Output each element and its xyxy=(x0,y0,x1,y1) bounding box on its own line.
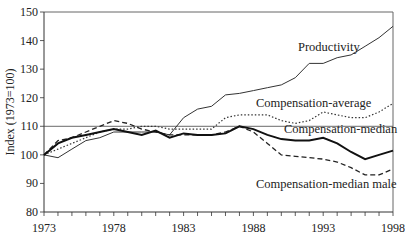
y-axis-ticks xyxy=(40,12,44,212)
x-tick-1993: 1993 xyxy=(311,221,335,235)
y-tick-100: 100 xyxy=(20,148,38,162)
y-tick-130: 130 xyxy=(20,62,38,76)
compensation-median-label: Compensation-median xyxy=(284,122,398,136)
compensation-median-male-label: Compensation-median male xyxy=(256,177,397,191)
y-tick-labels: 150 140 130 120 110 100 90 80 xyxy=(20,5,38,219)
x-tick-1978: 1978 xyxy=(102,221,126,235)
x-tick-1983: 1983 xyxy=(172,221,196,235)
x-tick-1973: 1973 xyxy=(32,221,56,235)
y-tick-110: 110 xyxy=(20,119,38,133)
y-axis-title: Index (1973=100) xyxy=(3,68,17,155)
y-tick-140: 140 xyxy=(20,34,38,48)
x-tick-labels: 1973 1978 1983 1988 1993 1998 xyxy=(32,221,405,235)
y-tick-80: 80 xyxy=(26,205,38,219)
y-tick-90: 90 xyxy=(26,176,38,190)
x-axis-ticks xyxy=(44,212,393,216)
compensation-average-label: Compensation-average xyxy=(256,96,372,110)
x-tick-1988: 1988 xyxy=(241,221,265,235)
y-tick-150: 150 xyxy=(20,5,38,19)
line-chart: 150 140 130 120 110 100 90 80 1973 1978 … xyxy=(0,0,405,248)
y-tick-120: 120 xyxy=(20,91,38,105)
productivity-label: Productivity xyxy=(298,40,361,54)
x-tick-1998: 1998 xyxy=(381,221,405,235)
